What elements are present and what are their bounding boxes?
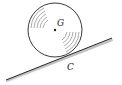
contact-point-label: C [67, 63, 74, 72]
disc [28, 3, 82, 57]
disc-on-incline-diagram [0, 0, 122, 85]
center-label: G [57, 19, 64, 28]
center-point [54, 29, 56, 31]
